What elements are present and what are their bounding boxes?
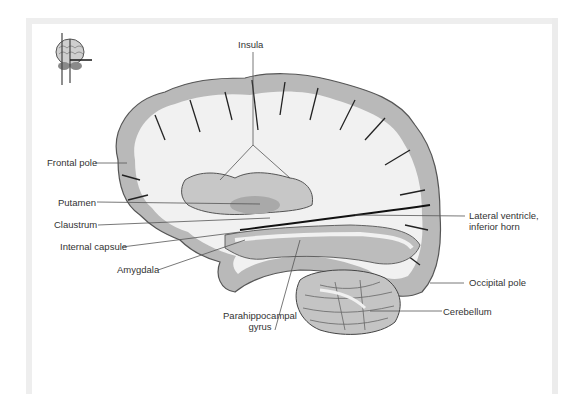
- label-amygdala: Amygdala: [117, 264, 159, 275]
- label-putamen: Putamen: [58, 197, 96, 208]
- label-cerebellum: Cerebellum: [443, 306, 492, 317]
- label-frontal-pole: Frontal pole: [47, 157, 97, 168]
- label-parahippocampal-line2: gyrus: [220, 321, 300, 332]
- label-occipital-pole: Occipital pole: [469, 277, 526, 288]
- label-lateral-ventricle-line2: inferior horn: [469, 221, 539, 232]
- putamen: [230, 196, 280, 214]
- label-lateral-ventricle-inferior-horn: Lateral ventricle, inferior horn: [469, 210, 539, 232]
- label-parahippocampal-line1: Parahippocampal: [220, 310, 300, 321]
- label-internal-capsule: Internal capsule: [60, 241, 127, 252]
- label-insula: Insula: [238, 39, 263, 50]
- label-lateral-ventricle-line1: Lateral ventricle,: [469, 210, 539, 221]
- label-parahippocampal-gyrus: Parahippocampal gyrus: [220, 310, 300, 332]
- cerebellum: [296, 270, 400, 334]
- label-claustrum: Claustrum: [54, 219, 97, 230]
